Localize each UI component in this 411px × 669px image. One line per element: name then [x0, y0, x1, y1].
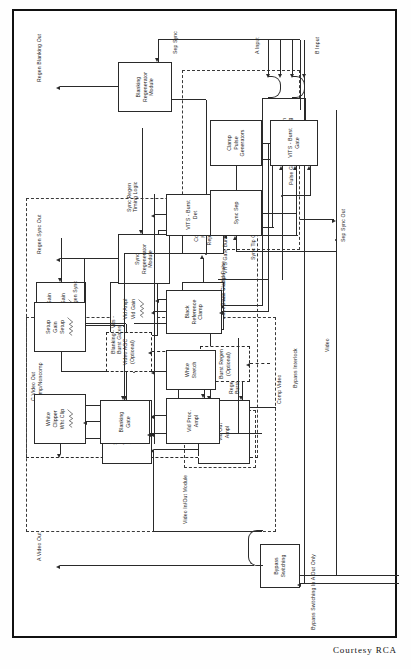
setup-pot-icon[interactable]: [67, 318, 75, 337]
block-bypass-switching[interactable]: Bypass Switching: [260, 544, 300, 588]
wire-sepsync-to-pulsegate: [300, 40, 301, 110]
module-label-video-in-out: Video In/Out Module: [182, 475, 188, 524]
arrowhead-a-input-2: [278, 74, 282, 78]
wire-a-input-2: [280, 40, 281, 74]
label-sep-sync-out: Sep Sync Out: [340, 209, 346, 242]
block-setup-gain-label: Setup Gain: [45, 320, 58, 334]
wire-bypass-input-feed: [300, 583, 399, 584]
vid-gain-pot-icon[interactable]: [138, 300, 146, 319]
wire-comp-video-riser: [250, 407, 276, 408]
arrowhead-blackref-clamp-pulse: [219, 311, 223, 315]
block-sync-regenerator-module[interactable]: Sync Regenerator Module: [118, 234, 170, 284]
wire-blanking-regen-down: [172, 99, 206, 100]
arrowhead-a-input-1: [266, 74, 270, 78]
wire-white-clipper-out: [60, 444, 61, 454]
block-setup-gain-control: Setup: [59, 320, 66, 334]
label-regen-blanking-out: Regen Blanking Out: [36, 34, 42, 82]
wire-blackref-riser: [154, 311, 166, 312]
wire-video-bus: [336, 110, 337, 576]
block-blanking-regenerator-module-label: Blanking Regenerator Module: [135, 72, 155, 102]
label-regen-sync-out: Regen Sync Out: [36, 214, 42, 254]
block-sync-regenerator-module-label: Sync Regenerator Module: [134, 244, 154, 274]
arrowhead-agc-in: [148, 351, 152, 355]
wire-bypass-up: [153, 531, 257, 532]
arrowhead-blanking-gate-to-white: [83, 421, 87, 425]
arrowhead-vitsgate-in-1: [279, 166, 283, 170]
block-burst-regen[interactable]: [198, 456, 200, 458]
label-sync-regen-timing-logic-text: Sync Regen Timing Logic: [126, 181, 138, 212]
wire-bypass-to-sync-adder: [153, 450, 154, 532]
wire-setup-gain-drop: [86, 325, 124, 326]
block-blanking-gate-label: Blanking Gate: [118, 412, 131, 433]
wire-proc-main-bus: [154, 194, 155, 444]
label-vits-gate-burst: VITS Gate Burst: [222, 235, 228, 274]
block-sync-sep[interactable]: Sync Sep: [210, 190, 262, 236]
arrowhead-regen-blanking-out: [56, 86, 60, 90]
block-white-clipper[interactable]: White Clipper Wht Clip: [34, 394, 86, 444]
label-sep-sync: Sep Sync: [172, 31, 178, 54]
block-setup-gain-box[interactable]: Setup Gain Setup: [34, 302, 86, 352]
arrowhead-sep-sync-into-blanking: [155, 58, 159, 62]
wire-sync-a-out: [153, 565, 254, 566]
block-black-reference-clamp[interactable]: Black Reference Clamp: [166, 290, 222, 334]
figure-caption: Courtesy RCA: [333, 645, 397, 655]
block-white-stretch-label: White Stretch: [184, 361, 197, 378]
arrowhead-sync-regen-timing: [139, 230, 143, 234]
arrowhead-syncsep-to-vitsgate: [293, 166, 297, 170]
wire-vidout-to-sync-1: [154, 449, 198, 450]
label-b-input: B Input: [314, 37, 320, 54]
block-vid-proc-ampl-label: Vid Proc. Ampl: [186, 410, 199, 432]
label-bypass-interlock: Bypass Interlock: [292, 348, 298, 388]
wire-vitsgate-out2-riser: [282, 195, 310, 196]
wire-video-into-syncsep-riser: [236, 251, 336, 252]
block-clamp-pulse-generators[interactable]: Clamp Pulse Generators: [210, 120, 262, 166]
wire-b-input-1: [292, 40, 293, 74]
wire-input-sel-out-a: [272, 160, 273, 228]
block-vits-burst-gate[interactable]: VITS - Burst Gate: [270, 120, 318, 166]
label-blanking-vits-burst-gates-text: Blanking - Vits - Burst Gates: [110, 316, 122, 354]
block-black-reference-clamp-label: Black Reference Clamp: [184, 300, 204, 325]
wire-blanking-vits-burst: [124, 254, 125, 400]
wire-sync-regen-timing: [142, 128, 143, 234]
arrowhead-regen-sync-out: [56, 258, 60, 262]
block-vid-proc-ampl[interactable]: Vid Proc. Ampl: [166, 398, 220, 444]
block-white-clipper-control: Wht Clip: [59, 409, 66, 429]
bypass-loop: [248, 530, 263, 566]
label-a-video-out: A Video Out: [36, 532, 42, 561]
block-blanking-regenerator-module[interactable]: Blanking Regenerator Module: [118, 62, 172, 112]
diagram-stage: Video In/Out Module Video Proc. Module P…: [14, 11, 399, 640]
wire-chroma-in: [61, 238, 62, 282]
wire-vidproc-bottom: [238, 338, 239, 434]
wire-blackref-clamp-pulse: [222, 311, 268, 312]
wire-vits-gate-burst: [218, 279, 268, 280]
wire-blanking-bus-down: [124, 253, 206, 254]
arrowhead-vidproc-to-blanking: [147, 433, 151, 437]
block-white-stretch[interactable]: White Stretch: [166, 350, 216, 390]
wire-whitestretch-riser: [154, 371, 166, 372]
block-bypass-switching-label: Bypass Switching: [273, 554, 286, 577]
wire-sync-tip-clamp-riser: [224, 305, 262, 306]
block-sync-sep-label: Sync Sep: [233, 201, 240, 224]
block-white-clipper-label: White Clipper: [45, 410, 58, 427]
label-blanking-vits-burst-gates: Blanking - Vits - Burst Gates: [110, 316, 123, 354]
wht-clip-pot-icon[interactable]: [67, 410, 75, 429]
label-bypass-switching-in-a-out-only: Bypass Switching In A Out Only: [310, 554, 316, 630]
block-vits-burst-det-label: VITS - Burst Det: [185, 200, 198, 230]
wire-clamp-gen-side: [262, 143, 270, 144]
arrowhead-video-into-syncsep: [233, 236, 237, 240]
wire-vitsgate-out: [282, 166, 283, 280]
block-vid-ampl-control: Vid Gain: [130, 299, 137, 320]
wire-burst-regen-in: [250, 363, 270, 364]
wire-syncsep-to-vitsgate-h: [296, 166, 297, 214]
wire-regen-sync-out: [60, 258, 118, 259]
wire-syncsep-to-clamp: [236, 166, 237, 190]
arrowhead-whitestretch-back: [201, 394, 205, 398]
wire-blanking-regen-out: [102, 86, 118, 87]
wire-a-input-1: [268, 40, 269, 74]
arrowhead-hum-to-cmr: [200, 255, 204, 259]
wire-bypass-input-feed2: [300, 575, 399, 576]
block-blanking-gate[interactable]: Blanking Gate: [100, 400, 150, 444]
wire-vidproc-down: [220, 433, 262, 434]
block-burst-regen-label: Burst Regen (Optional): [218, 349, 231, 379]
figure-page: Video In/Out Module Video Proc. Module P…: [0, 0, 411, 669]
